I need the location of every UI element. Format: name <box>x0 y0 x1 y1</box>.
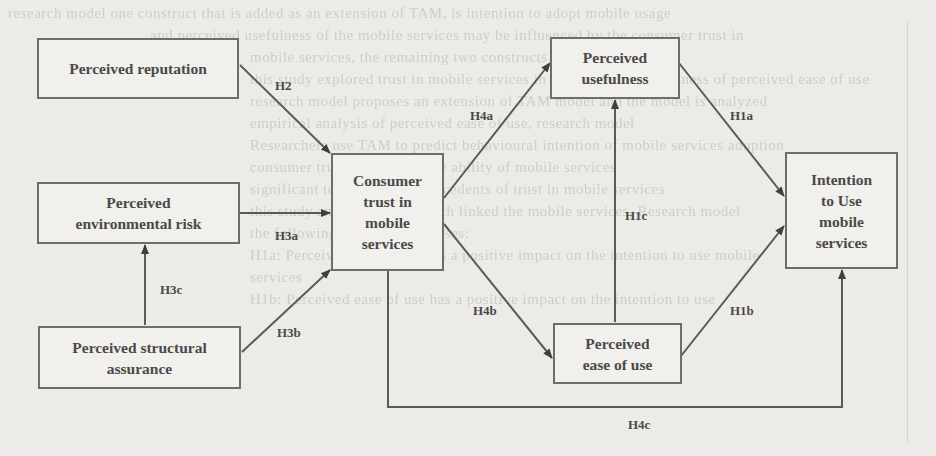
node-label: Intention to Use mobile services <box>803 169 880 253</box>
node-label: Perceived environmental risk <box>61 192 216 234</box>
node-label: Consumer trust in mobile services <box>347 170 428 254</box>
label-h1b: H1b <box>730 303 754 319</box>
edge-h1a <box>679 63 784 196</box>
label-h1c: H1c <box>625 208 647 224</box>
node-perceived-environmental-risk: Perceived environmental risk <box>37 182 240 244</box>
label-h3b: H3b <box>277 325 301 341</box>
label-h1a: H1a <box>730 108 753 124</box>
label-h4c: H4c <box>628 417 650 433</box>
node-perceived-structural-assurance: Perceived structural assurance <box>38 326 241 389</box>
node-intention-to-use: Intention to Use mobile services <box>785 152 898 269</box>
label-h4a: H4a <box>470 108 493 124</box>
node-perceived-ease-of-use: Perceived ease of use <box>553 323 682 384</box>
node-consumer-trust: Consumer trust in mobile services <box>331 153 444 271</box>
node-label: Perceived reputation <box>69 58 207 79</box>
node-label: Perceived ease of use <box>573 333 662 375</box>
edge-h4b <box>444 224 552 358</box>
node-perceived-usefulness: Perceived usefulness <box>550 37 680 99</box>
node-label: Perceived usefulness <box>576 47 654 89</box>
label-h4b: H4b <box>473 303 497 319</box>
label-h2: H2 <box>275 78 292 94</box>
edge-h1b <box>681 226 784 356</box>
label-h3a: H3a <box>275 228 298 244</box>
node-label: Perceived structural assurance <box>60 337 219 379</box>
label-h3c: H3c <box>160 282 182 298</box>
edge-h4a <box>444 63 550 198</box>
node-perceived-reputation: Perceived reputation <box>37 38 239 99</box>
